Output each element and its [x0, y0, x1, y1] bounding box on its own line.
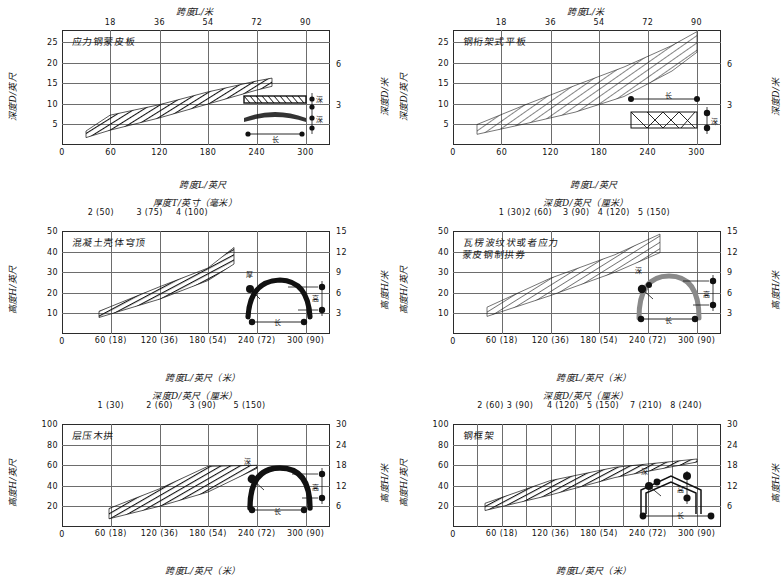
xtick-bottom: 300 (90): [287, 530, 324, 539]
ytick-left: 40: [427, 481, 449, 490]
axis-caption-bottom: 跨度L/英尺: [179, 178, 226, 191]
xtick-top: 3 (90): [507, 402, 533, 411]
xtick-bottom: 120 (36): [532, 337, 569, 346]
axis-caption-left: 深度D/英尺: [397, 72, 410, 120]
chart-title: 应力钢蒙皮板: [71, 36, 136, 48]
ytick-left: 100: [36, 420, 58, 429]
plot-area: 钢框架 深 高 长 2 (60) 3 (90: [453, 424, 721, 527]
ytick-left: 25: [431, 38, 449, 47]
xtick-bottom: 180 (54): [580, 337, 617, 346]
xtick-top: 8 (240): [670, 402, 702, 411]
ytick-left: 40: [429, 247, 449, 256]
ytick-right: 12: [727, 247, 738, 256]
axis-caption-top: 跨度L/米: [176, 5, 214, 18]
xtick-bottom: 0: [59, 148, 65, 157]
ytick-left: 40: [36, 481, 58, 490]
ytick-left: 20: [36, 502, 58, 511]
axis-caption-bottom: 跨度L/英尺（米）: [556, 371, 631, 384]
ytick-right: 6: [336, 60, 342, 69]
axis-caption-bottom: 跨度L/英尺: [570, 178, 617, 191]
ytick-left: 5: [431, 120, 449, 129]
ytick-left: 60: [36, 461, 58, 470]
axis-caption-left: 高度H/英尺: [397, 265, 410, 314]
xtick-top: 3 (90): [189, 402, 215, 411]
ytick-right: 3: [727, 309, 733, 318]
axis-caption-right: 深度D/米: [769, 77, 781, 116]
plot-area: 混凝土壳体穹顶 厚 高 长 2 (50) 3: [62, 231, 330, 334]
axis-caption-bottom: 跨度L/英尺（米）: [165, 371, 240, 384]
xtick-top: 90: [300, 18, 311, 27]
xtick-top: 18: [105, 18, 116, 27]
ytick-left: 20: [429, 288, 449, 297]
axis-caption-left: 深度D/英尺: [6, 72, 19, 120]
ytick-left: 60: [427, 461, 449, 470]
ytick-left: 30: [38, 268, 58, 277]
ytick-right: 6: [336, 288, 342, 297]
ytick-right: 6: [336, 502, 342, 511]
ytick-right: 24: [727, 440, 738, 449]
ytick-left: 10: [429, 309, 449, 318]
chart-title: 混凝土壳体穹顶: [71, 237, 147, 249]
xtick-top: 7 (210): [630, 402, 662, 411]
ytick-right: 30: [336, 420, 347, 429]
xtick-bottom: 60: [105, 148, 116, 157]
xtick-bottom: 240 (72): [238, 530, 275, 539]
xtick-bottom: 120: [151, 148, 167, 157]
axis-caption-left: 高度H/英尺: [6, 458, 19, 507]
xtick-top: 4 (120): [598, 209, 630, 218]
xtick-top: 72: [251, 18, 262, 27]
chart-panel-laminated-timber-arch: 深度D/英尺（厘米） 跨度L/英尺（米） 高度H/英尺 高度H/米 层压木拱: [0, 386, 390, 579]
xtick-bottom: 240 (72): [238, 337, 275, 346]
ytick-right: 15: [336, 227, 347, 236]
ytick-right: 12: [336, 481, 347, 490]
chart-title: 钢框架: [462, 430, 495, 442]
axis-caption-right: 高度H/米: [769, 463, 781, 502]
ytick-right: 30: [727, 420, 738, 429]
figure-sheet: 跨度L/米 跨度L/英尺 深度D/英尺 深度D/米 应力钢蒙皮板: [0, 0, 781, 579]
axis-caption-right: 深度D/米: [378, 77, 391, 116]
ytick-right: 6: [727, 60, 733, 69]
xtick-bottom: 300 (90): [287, 337, 324, 346]
axis-caption-left: 高度H/英尺: [397, 458, 410, 507]
ytick-left: 10: [40, 99, 58, 108]
xtick-top: 54: [594, 18, 605, 27]
xtick-bottom: 120 (36): [141, 337, 178, 346]
xtick-bottom: 300 (90): [678, 337, 715, 346]
ytick-right: 3: [336, 309, 342, 318]
xtick-top: 2 (50): [88, 209, 114, 218]
xtick-top: 2 (60): [477, 402, 503, 411]
chart-panel-concrete-shell-dome: 厚度T/英寸（毫米） 跨度L/英尺（米） 高度H/英尺 高度H/米 混凝土壳体穹…: [0, 193, 390, 386]
xtick-bottom: 240 (72): [629, 337, 666, 346]
chart-title: 钢桁架式平板: [462, 36, 527, 48]
ytick-left: 5: [40, 120, 58, 129]
xtick-bottom-zero: 0: [59, 337, 65, 346]
xtick-bottom: 60 (18): [95, 337, 127, 346]
xtick-bottom-zero: 0: [59, 530, 65, 539]
xtick-top: 2 (60): [146, 402, 172, 411]
ytick-right: 24: [336, 440, 347, 449]
xtick-bottom: 180 (54): [189, 337, 226, 346]
xtick-bottom: 120: [542, 148, 558, 157]
xtick-top: 3 (90): [563, 209, 589, 218]
ytick-left: 15: [431, 79, 449, 88]
ytick-left: 20: [431, 58, 449, 67]
chart-panel-corrugated-steel-arch: 深度D/英尺（厘米） 跨度L/英尺（米） 高度H/英尺 高度H/米 瓦楞波纹状或…: [391, 193, 781, 386]
axis-caption-left: 高度H/英尺: [6, 265, 19, 314]
chart-panel-steel-truss-flat-panel: 跨度L/米 跨度L/英尺 深度D/英尺 深度D/米 钢桁架式平板: [391, 0, 781, 193]
ytick-left: 40: [38, 247, 58, 256]
xtick-bottom: 180 (54): [189, 530, 226, 539]
chart-title: 瓦楞波纹状或者应力 蒙皮钢制拱券: [462, 237, 560, 261]
ytick-left: 10: [431, 99, 449, 108]
xtick-bottom: 120 (36): [532, 530, 569, 539]
axis-caption-right: 高度H/米: [769, 270, 781, 309]
ytick-right: 12: [727, 481, 738, 490]
xtick-top: 5 (150): [234, 402, 266, 411]
xtick-bottom: 240: [249, 148, 265, 157]
ytick-right: 12: [336, 247, 347, 256]
ytick-left: 50: [429, 227, 449, 236]
ytick-left: 80: [427, 440, 449, 449]
xtick-top: 2 (60): [526, 209, 552, 218]
ytick-right: 15: [727, 227, 738, 236]
xtick-bottom: 0: [450, 148, 456, 157]
xtick-top: 18: [496, 18, 507, 27]
